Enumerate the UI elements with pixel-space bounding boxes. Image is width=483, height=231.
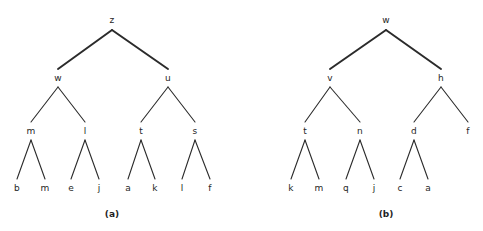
tree-node-s: s <box>193 127 198 136</box>
tree-node-a: a <box>125 184 131 193</box>
tree-node-q: q <box>343 184 349 193</box>
tree-node-b: b <box>14 184 20 193</box>
tree-node-t: t <box>303 127 307 136</box>
tree-node-j: j <box>98 184 101 193</box>
tree-node-l: l <box>181 184 184 193</box>
tree-node-k: k <box>152 184 157 193</box>
tree-node-w: w <box>54 74 62 83</box>
tree-node-m: m <box>315 184 324 193</box>
tree-node-m: m <box>41 184 50 193</box>
tree-node-e: e <box>68 184 74 193</box>
tree-node-a: a <box>425 184 431 193</box>
tree-node-v: v <box>327 74 333 83</box>
tree-nodes-a: zwumltsbmejaklf <box>0 0 241 231</box>
tree-node-u: u <box>165 74 171 83</box>
panel-caption-a: (a) <box>105 209 119 219</box>
tree-node-t: t <box>139 127 143 136</box>
tree-node-n: n <box>357 127 363 136</box>
tree-node-j: j <box>373 184 376 193</box>
tree-node-w: w <box>382 16 390 25</box>
tree-node-h: h <box>438 74 444 83</box>
tree-panel-a: zwumltsbmejaklf (a) <box>0 0 241 231</box>
tree-node-z: z <box>110 16 115 25</box>
panel-caption-b: (b) <box>379 209 394 219</box>
figure-root: zwumltsbmejaklf (a) wvhtndfkmqjca (b) <box>0 0 483 231</box>
tree-node-m: m <box>27 127 36 136</box>
tree-node-l: l <box>84 127 87 136</box>
tree-node-d: d <box>411 127 417 136</box>
tree-node-k: k <box>288 184 293 193</box>
tree-panel-b: wvhtndfkmqjca (b) <box>241 0 482 231</box>
tree-node-c: c <box>397 184 402 193</box>
tree-node-f: f <box>466 127 469 136</box>
tree-nodes-b: wvhtndfkmqjca <box>241 0 482 231</box>
tree-node-f: f <box>208 184 211 193</box>
